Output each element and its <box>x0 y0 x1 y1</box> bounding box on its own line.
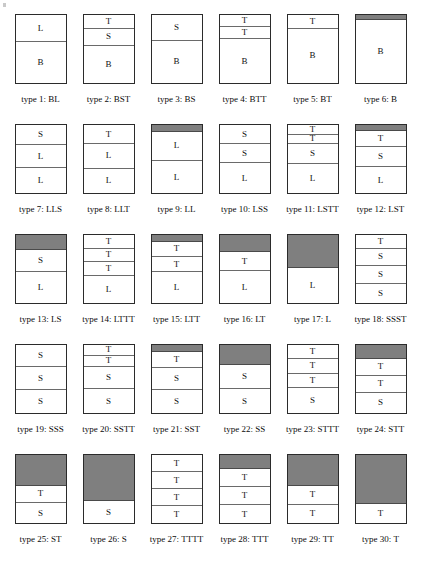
type-box-segment-gray <box>152 345 202 352</box>
type-box-segment: L <box>220 271 270 303</box>
type-box-segment: T <box>84 15 134 29</box>
type-box-segment: L <box>220 163 270 193</box>
type-box-wrapper: TTTS <box>287 344 339 418</box>
type-box-segment: T <box>288 345 338 359</box>
type-box-wrapper: TSS <box>151 344 203 418</box>
type-row: LBtype 1: BLTSBtype 2: BSTSBtype 3: BSTT… <box>0 14 421 124</box>
type-box-segment: T <box>288 505 338 523</box>
type-row: SSStype 19: SSSTTSStype 20: SSTTTSStype … <box>0 344 421 454</box>
type-box-segment: T <box>152 506 202 523</box>
type-box-segment: T <box>16 486 66 504</box>
type-box-wrapper: L <box>287 234 339 308</box>
type-box: SL <box>15 234 67 304</box>
type-box: TLL <box>83 124 135 194</box>
type-box-segment: T <box>288 15 338 29</box>
type-box: T <box>355 454 407 524</box>
type-box-segment: B <box>220 39 270 83</box>
type-box-wrapper: SS <box>219 344 271 418</box>
type-cell: Btype 6: B <box>347 14 415 104</box>
type-box-segment: S <box>16 503 66 523</box>
type-caption: type 28: TTT <box>221 535 269 544</box>
type-box: TTL <box>151 234 203 304</box>
type-caption: type 1: BL <box>21 95 60 104</box>
type-cell: Ltype 17: L <box>279 234 347 324</box>
type-box: SSS <box>15 344 67 414</box>
type-box-segment: T <box>152 455 202 472</box>
type-box-segment: T <box>84 262 134 276</box>
type-box: TSL <box>355 124 407 194</box>
type-box-segment: B <box>356 20 406 83</box>
type-cell: TLLtype 8: LLT <box>75 124 143 214</box>
type-box-wrapper: T <box>355 454 407 528</box>
type-box-segment: T <box>288 125 338 135</box>
type-box-segment: T <box>288 135 338 145</box>
type-box-segment: T <box>288 374 338 388</box>
type-box-segment: L <box>288 268 338 303</box>
type-box: S <box>83 454 135 524</box>
type-box-segment: B <box>16 42 66 83</box>
type-box-segment: T <box>288 486 338 504</box>
type-box-segment: S <box>288 144 338 164</box>
type-cell: Ttype 30: T <box>347 454 415 544</box>
type-box-segment: L <box>84 169 134 193</box>
type-box-segment: T <box>356 359 406 376</box>
type-caption: type 30: T <box>362 535 399 544</box>
type-box: TSS <box>151 344 203 414</box>
type-box-segment: B <box>288 29 338 83</box>
type-box-wrapper: LB <box>15 14 67 88</box>
type-box: TTTT <box>151 454 203 524</box>
type-box-wrapper: TTB <box>219 14 271 88</box>
type-box-wrapper: SSL <box>219 124 271 198</box>
type-box: TTB <box>219 14 271 84</box>
type-box: TSB <box>83 14 135 84</box>
type-caption: type 26: S <box>90 535 127 544</box>
scan-artifact-speck <box>3 3 6 7</box>
type-box-segment: S <box>356 249 406 266</box>
type-cell: TLtype 16: LT <box>211 234 279 324</box>
type-box-segment-gray <box>152 235 202 242</box>
type-box: TTT <box>219 454 271 524</box>
type-box-segment: T <box>152 352 202 368</box>
type-box-segment: S <box>356 147 406 167</box>
type-box-segment: S <box>16 345 66 367</box>
type-box-wrapper: TTS <box>355 344 407 418</box>
type-box-segment: T <box>220 252 270 271</box>
type-cell: TTLtype 15: LTT <box>143 234 211 324</box>
type-box-segment: S <box>152 368 202 390</box>
type-box-segment: L <box>152 132 202 161</box>
type-box-segment-gray <box>220 345 270 365</box>
type-box-segment: B <box>152 41 202 83</box>
type-box-wrapper: TSL <box>355 124 407 198</box>
type-box-segment: S <box>84 367 134 389</box>
type-box-segment: S <box>84 29 134 46</box>
type-box-wrapper: TT <box>287 454 339 528</box>
type-cell: TTTLtype 14: LTTT <box>75 234 143 324</box>
type-box-segment-gray <box>220 235 270 252</box>
type-cell: TTStype 24: STT <box>347 344 415 434</box>
type-cell: TBtype 5: BT <box>279 14 347 104</box>
type-box-segment: S <box>152 15 202 41</box>
type-cell: TSBtype 2: BST <box>75 14 143 104</box>
type-cell: SSLtype 10: LSS <box>211 124 279 214</box>
type-box-segment-gray <box>288 455 338 486</box>
type-box-segment: L <box>84 276 134 303</box>
type-box: TB <box>287 14 339 84</box>
type-caption: type 6: B <box>364 95 397 104</box>
type-box-segment: S <box>152 390 202 413</box>
type-box-segment-gray <box>220 455 270 469</box>
type-caption: type 22: SS <box>224 425 266 434</box>
type-box-segment: S <box>356 393 406 413</box>
type-box-wrapper: LL <box>151 124 203 198</box>
type-box-wrapper: B <box>355 14 407 88</box>
type-box: SSL <box>219 124 271 194</box>
type-box: B <box>355 14 407 84</box>
type-box-segment: T <box>356 504 406 523</box>
type-caption: type 7: LLS <box>19 205 62 214</box>
type-box: LB <box>15 14 67 84</box>
type-box-segment: T <box>84 125 134 144</box>
type-box: TSSS <box>355 234 407 304</box>
type-cell: TTtype 29: TT <box>279 454 347 544</box>
type-box-segment-gray <box>356 345 406 359</box>
type-box-wrapper: S <box>83 454 135 528</box>
type-box-segment-gray <box>16 235 66 250</box>
